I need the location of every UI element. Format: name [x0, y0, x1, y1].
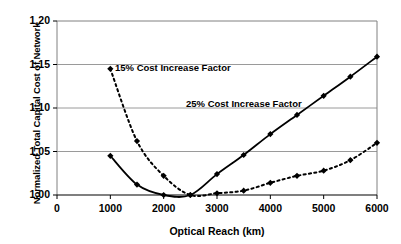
series-line — [110, 69, 377, 196]
y-tick-label: 1.20 — [10, 14, 50, 26]
data-point-marker — [134, 138, 140, 144]
x-tick-label: 1000 — [80, 202, 140, 214]
y-tick-label: 1.10 — [10, 101, 50, 113]
y-tick-label: 1.15 — [10, 58, 50, 70]
data-point-marker — [187, 192, 193, 198]
y-tick-label: 1.05 — [10, 145, 50, 157]
x-tick-label: 5000 — [294, 202, 354, 214]
y-axis-title: Normalized Total Capital Cost of Network — [31, 14, 42, 214]
y-tick-marks — [53, 21, 57, 195]
chart-container: Normalized Total Capital Cost of Network… — [0, 0, 401, 244]
data-point-marker — [294, 173, 300, 179]
x-axis-title: Optical Reach (km) — [57, 225, 377, 237]
series-annotation: 25% Cost Increase Factor — [186, 98, 302, 109]
series-line — [110, 57, 377, 197]
data-point-marker — [321, 168, 327, 174]
data-series-layer — [107, 54, 380, 199]
data-point-marker — [267, 180, 273, 186]
data-point-marker — [347, 157, 353, 163]
series-annotation: 15% Cost Increase Factor — [115, 62, 231, 73]
x-tick-label: 6000 — [347, 202, 401, 214]
data-point-marker — [161, 192, 167, 198]
x-tick-label: 4000 — [240, 202, 300, 214]
y-tick-label: 1.00 — [10, 188, 50, 200]
x-tick-label: 3000 — [187, 202, 247, 214]
x-tick-label: 0 — [27, 202, 87, 214]
series-2 — [107, 54, 380, 199]
x-tick-label: 2000 — [134, 202, 194, 214]
data-point-marker — [107, 66, 113, 72]
data-point-marker — [241, 188, 247, 194]
